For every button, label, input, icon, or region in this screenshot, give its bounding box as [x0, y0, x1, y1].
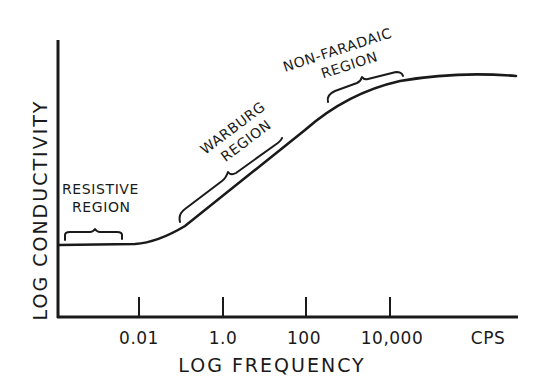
x-unit-label: CPS [471, 328, 505, 348]
x-tick-label: 0.01 [119, 328, 159, 348]
x-tick-label: 1.0 [209, 328, 238, 348]
resistive-region-label: REGION [72, 199, 131, 215]
resistive-region-label: RESISTIVE [62, 181, 139, 197]
x-tick-label: 10,000 [361, 328, 423, 348]
non-faradaic-region-label-group: NON-FARADAIC REGION [281, 25, 399, 92]
x-axis-title: LOG FREQUENCY [178, 354, 365, 376]
resistive-region-brace [65, 229, 122, 240]
conductivity-frequency-diagram: 0.01 1.0 100 10,000 CPS LOG FREQUENCY LO… [0, 0, 540, 385]
x-tick-label: 100 [287, 328, 321, 348]
conductivity-curve [59, 74, 516, 245]
y-axis-title: LOG CONDUCTIVITY [29, 100, 51, 321]
